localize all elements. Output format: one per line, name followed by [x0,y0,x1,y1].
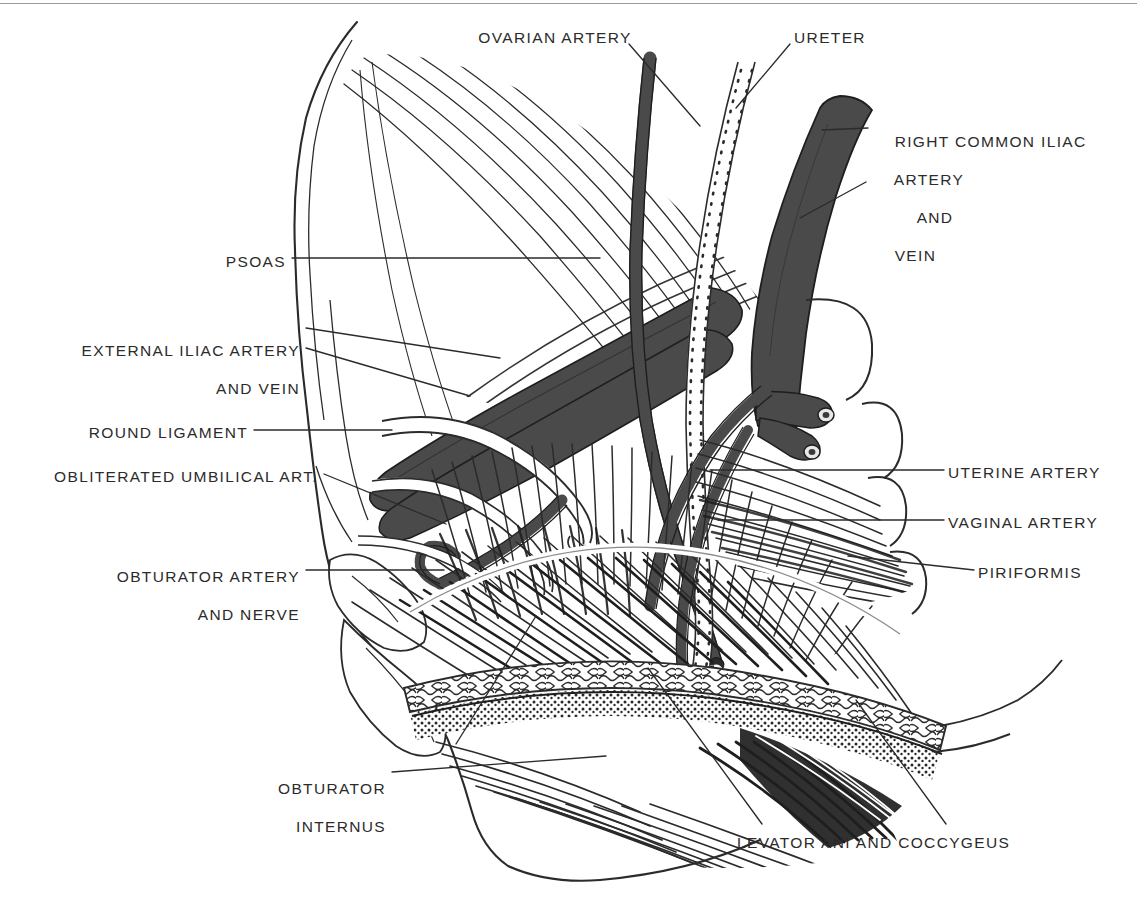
label-line-4: VEIN [895,247,937,264]
label-line-2: ARTERY [894,171,964,188]
iliac-branch-stumps [756,392,834,460]
label-line-2: AND VEIN [216,380,300,397]
label-line-1: EXTERNAL ILIAC ARTERY [82,342,300,359]
label-levator-ani-and-coccygeus: LEVATOR ANI AND COCCYGEUS [737,833,1067,852]
label-ureter: URETER [760,28,900,47]
label-line-2: INTERNUS [296,818,386,835]
label-obturator-internus: OBTURATOR INTERNUS [186,760,386,855]
label-round-ligament: ROUND LIGAMENT [48,423,248,442]
label-line-1: RIGHT COMMON ILIAC [895,133,1087,150]
sacral-foramina [806,299,926,614]
label-psoas: PSOAS [86,252,286,271]
label-line-2: AND NERVE [198,606,300,623]
label-piriformis: PIRIFORMIS [978,563,1137,582]
label-ovarian-artery: OVARIAN ARTERY [455,28,655,47]
label-line-3: AND [895,208,954,227]
label-vaginal-artery: VAGINAL ARTERY [948,513,1137,532]
label-uterine-artery: UTERINE ARTERY [948,463,1137,482]
leader-piriformis [848,556,974,570]
label-line-1: OBTURATOR ARTERY [117,568,300,585]
label-obturator-artery-and-nerve: OBTURATOR ARTERY AND NERVE [60,548,300,643]
label-obliterated-umbilical-artery: OBLITERATED UMBILICAL ART. [18,467,318,486]
psoas-crest-fibers [360,62,456,436]
leader-external-iliac-vein [306,348,470,396]
label-line-1: OBTURATOR [278,780,386,797]
common-iliac-vessel [752,96,872,460]
label-right-common-iliac: RIGHT COMMON ILIAC ARTERY AND VEIN [872,113,1122,284]
label-external-iliac: EXTERNAL ILIAC ARTERY AND VEIN [20,322,300,417]
figure-page: OVARIAN ARTERY URETER RIGHT COMMON ILIAC… [0,0,1137,912]
sacrum-outer-edge [934,660,1062,752]
